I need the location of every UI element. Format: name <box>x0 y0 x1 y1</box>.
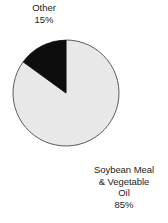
pie-chart: Other 15% Soybean Meal & Vegetable Oil 8… <box>0 0 168 223</box>
soybean-slice-label: Soybean Meal & Vegetable Oil 85% <box>83 164 165 210</box>
other-label-name: Other <box>18 2 70 14</box>
other-label-value: 15% <box>18 14 70 26</box>
soybean-label-value: 85% <box>83 199 165 211</box>
soybean-label-line3: Oil <box>83 187 165 199</box>
soybean-label-line2: & Vegetable <box>83 176 165 188</box>
soybean-label-line1: Soybean Meal <box>83 164 165 176</box>
other-slice-label: Other 15% <box>18 2 70 25</box>
